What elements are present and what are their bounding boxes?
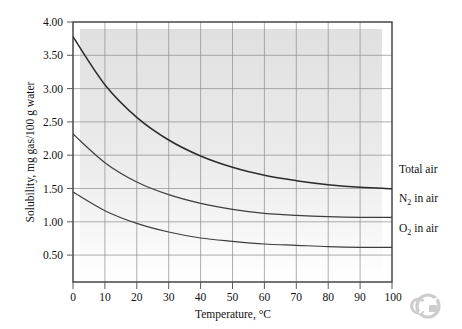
x-tick-label: 60 [259,291,271,303]
y-tick-label: 1.00 [43,216,63,228]
x-tick-label: 0 [70,291,76,303]
x-axis-tick-labels: 0 10 20 30 40 50 60 70 80 90 100 [70,291,402,303]
solubility-chart-figure: 4.00 3.50 3.00 2.50 2.00 1.50 1.00 0.50 … [0,0,462,329]
y-axis-title: Solubility, mg gas/100 g water [24,81,37,222]
x-tick-label: 90 [354,291,366,303]
x-tick-label: 40 [195,291,207,303]
y-tick-label: 2.50 [43,116,63,128]
x-tick-label: 20 [131,291,143,303]
x-axis-title: Temperature, °C [195,308,271,321]
y-axis-ticks [67,22,73,255]
y-tick-label: 3.50 [43,49,63,61]
x-tick-label: 80 [322,291,334,303]
y-tick-label: 0.50 [43,249,63,261]
x-tick-label: 100 [384,291,402,303]
x-tick-label: 50 [227,291,239,303]
series-label-o2-in-air: O2 in air [399,222,438,237]
series-label-o2-main: O [399,222,407,234]
series-label-o2-tail: in air [411,222,438,234]
y-tick-label: 4.00 [43,16,63,28]
x-tick-label: 10 [99,291,111,303]
series-label-n2-in-air: N2 in air [399,192,438,207]
y-tick-label: 3.00 [43,83,63,95]
y-axis-tick-labels: 4.00 3.50 3.00 2.50 2.00 1.50 1.00 0.50 [43,16,63,261]
x-tick-label: 30 [163,291,175,303]
series-label-n2-tail: in air [411,192,438,204]
watermark-logo [412,295,439,317]
y-tick-label: 2.00 [43,149,63,161]
x-tick-label: 70 [291,291,303,303]
y-tick-label: 1.50 [43,183,63,195]
x-axis-ticks [73,282,392,289]
chart-canvas: 4.00 3.50 3.00 2.50 2.00 1.50 1.00 0.50 … [0,0,462,329]
series-label-total-air-main: Total air [399,163,438,175]
series-label-total-air: Total air [399,163,438,175]
